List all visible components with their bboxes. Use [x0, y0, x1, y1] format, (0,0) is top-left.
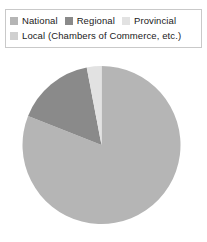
pie-chart-figure: National Regional Provincial Local (Cham… [0, 0, 207, 242]
chart-legend: National Regional Provincial Local (Cham… [5, 9, 202, 48]
pie-plot-area [21, 64, 182, 230]
legend-label-national: National [22, 15, 58, 26]
legend-row: Local (Chambers of Commerce, etc.) [10, 28, 197, 43]
legend-label-provincial: Provincial [134, 15, 176, 26]
pie-svg [21, 64, 182, 230]
legend-swatch-national-icon [10, 17, 18, 25]
legend-entry-national[interactable]: National [10, 15, 58, 26]
legend-label-regional: Regional [77, 15, 115, 26]
legend-row: National Regional Provincial [10, 13, 197, 28]
pie-slices-group [23, 66, 181, 224]
legend-swatch-regional-icon [65, 17, 73, 25]
legend-swatch-provincial-icon [122, 17, 130, 25]
legend-label-local: Local (Chambers of Commerce, etc.) [22, 30, 181, 41]
legend-entry-provincial[interactable]: Provincial [122, 15, 176, 26]
legend-entry-regional[interactable]: Regional [65, 15, 115, 26]
legend-swatch-local-icon [10, 32, 18, 40]
legend-entry-local[interactable]: Local (Chambers of Commerce, etc.) [10, 30, 181, 41]
